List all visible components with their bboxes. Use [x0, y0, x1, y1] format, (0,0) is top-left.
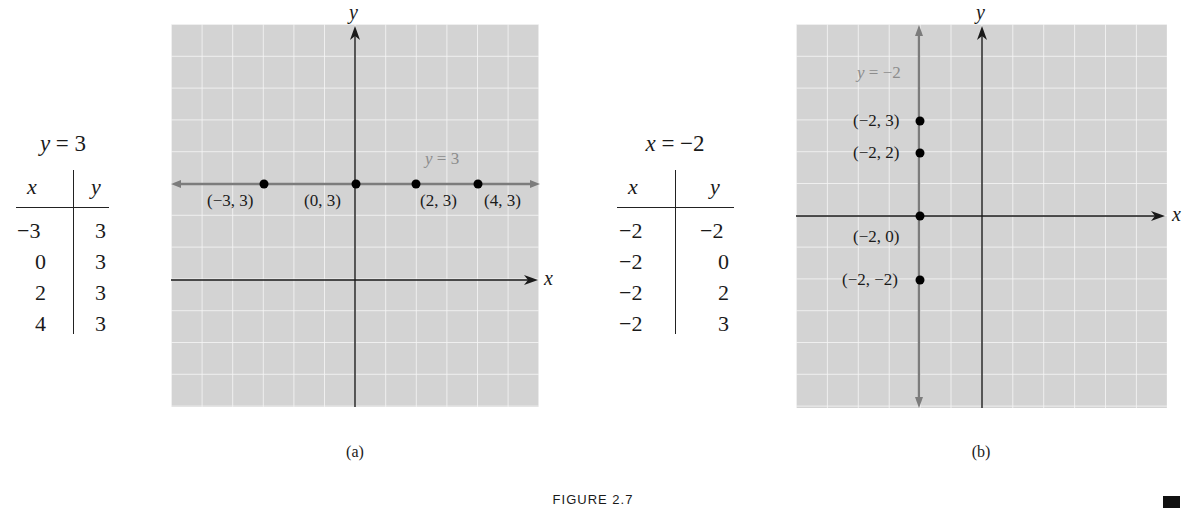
graph-a-point-label-3: (2, 3) [420, 191, 457, 211]
graph-b-point-neg2-3 [916, 117, 925, 126]
graph-b-line-label: y = −2 [857, 63, 901, 83]
table-b-title-text: x = −2 [645, 131, 704, 156]
graph-a-point-4-3 [474, 180, 483, 189]
graph-b-point-label-1: (−2, 3) [853, 111, 899, 131]
figure-caption: FIGURE 2.7 [553, 492, 634, 507]
graph-b-x-axis-label: x [1172, 203, 1181, 226]
table-b-row-2-x: −2 [619, 251, 642, 273]
graph-a-line-label: y = 3 [425, 149, 459, 169]
end-of-example-marker-icon [1163, 496, 1180, 508]
graph-b-point-neg2-neg2 [916, 276, 925, 285]
table-b-row-3-x: −2 [619, 282, 642, 304]
graph-a-point-label-1: (−3, 3) [207, 191, 253, 211]
graph-b-line-label-text: y = −2 [857, 63, 901, 82]
table-b-row-4-y: 3 [718, 313, 729, 335]
graph-b-plot [796, 24, 1167, 408]
graph-b-point-label-4: (−2, −2) [842, 270, 898, 290]
graph-a-point-2-3 [412, 180, 421, 189]
graph-b-point-label-3: (−2, 0) [853, 227, 899, 247]
table-b-header-x: x [628, 176, 638, 198]
graph-b-point-label-2: (−2, 2) [853, 143, 899, 163]
panel-b-label: (b) [972, 443, 991, 461]
graph-b-point-neg2-0 [916, 212, 925, 221]
graph-a-y-axis-label: y [349, 1, 358, 24]
table-b-row-2-y: 0 [718, 251, 729, 273]
graph-a-point-label-4: (4, 3) [484, 191, 521, 211]
table-b-title: x = −2 [645, 131, 704, 157]
graph-a-line-label-text: y = 3 [425, 149, 459, 168]
graph-b-point-neg2-2 [916, 149, 925, 158]
graph-a-point-0-3 [352, 180, 361, 189]
graph-b-y-axis-label: y [976, 1, 985, 24]
table-b-column-rule [675, 170, 676, 334]
graph-a-plot [171, 24, 540, 407]
table-b-row-1-x: −2 [619, 220, 642, 242]
table-b-header-y: y [710, 176, 720, 198]
panel-a-label: (a) [346, 443, 364, 461]
graph-a-point-neg3-3 [260, 180, 269, 189]
graph-a-point-label-2: (0, 3) [304, 191, 341, 211]
graph-a-x-axis-label: x [544, 267, 553, 290]
table-b-row-1-y: −2 [700, 220, 723, 242]
table-b-row-3-y: 2 [718, 282, 729, 304]
table-b-row-4-x: −2 [619, 313, 642, 335]
